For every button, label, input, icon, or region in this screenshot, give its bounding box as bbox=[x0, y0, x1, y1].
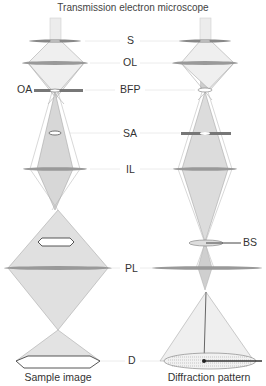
objective-lens-right bbox=[172, 61, 238, 65]
objective-lens-left bbox=[22, 61, 88, 65]
beam-incident bbox=[50, 18, 61, 40]
left-column-image-mode bbox=[4, 18, 112, 368]
caption-diffraction-pattern: Diffraction pattern bbox=[149, 371, 266, 383]
label-specimen: S bbox=[127, 34, 134, 46]
back-focal-plane-pattern bbox=[198, 88, 212, 92]
label-objective-lens: OL bbox=[123, 56, 137, 68]
label-detector: D bbox=[128, 354, 136, 366]
intermediate-lens-right bbox=[173, 167, 237, 171]
final-image-screen bbox=[16, 356, 100, 368]
label-back-focal-plane: BFP bbox=[120, 83, 140, 95]
magnified-image bbox=[38, 238, 74, 246]
projector-lens-right bbox=[152, 266, 262, 270]
intermediate-lens-left bbox=[23, 167, 87, 171]
intermediate-image-left bbox=[49, 131, 61, 135]
label-beam-stop: BS bbox=[243, 236, 257, 248]
label-objective-aperture: OA bbox=[17, 83, 32, 95]
label-selected-area: SA bbox=[123, 127, 137, 139]
right-column-diffraction-mode bbox=[152, 18, 262, 369]
projector-lens-left bbox=[4, 266, 112, 270]
label-intermediate-lens: IL bbox=[126, 163, 135, 175]
caption-sample-image: Sample image bbox=[0, 371, 118, 383]
label-projector-lens: PL bbox=[125, 262, 138, 274]
